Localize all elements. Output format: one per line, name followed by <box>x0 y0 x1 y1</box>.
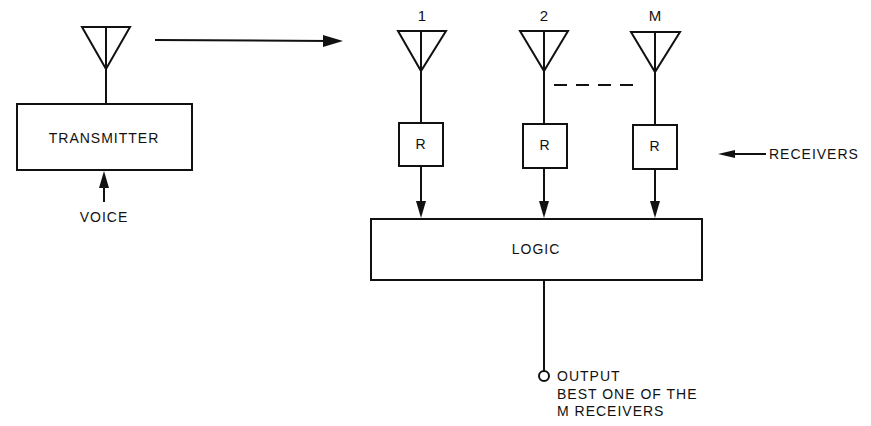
output-label-line-3: M RECEIVERS <box>557 403 664 419</box>
diversity-receiver-diagram: TRANSMITTER VOICE 1 2 M R R <box>0 0 871 426</box>
transmitter-antenna-icon <box>82 27 130 104</box>
logic-label: LOGIC <box>512 241 561 257</box>
receiver-2-to-logic-arrow <box>539 168 549 218</box>
logic-block: LOGIC <box>371 219 702 280</box>
receiver-1-label: R <box>415 136 426 152</box>
output-label-line-2: BEST ONE OF THE <box>557 386 698 402</box>
output-label-line-1: OUTPUT <box>557 368 621 384</box>
receiver-m-label: R <box>649 138 660 154</box>
receiver-2-block: R <box>523 124 567 168</box>
antenna-m-label: M <box>649 7 662 24</box>
receiver-2-label: R <box>539 137 550 153</box>
antenna-1-label: 1 <box>418 7 426 24</box>
receiver-m-block: R <box>633 125 677 169</box>
voice-input-arrow <box>99 171 109 202</box>
transmitter-label: TRANSMITTER <box>49 130 160 146</box>
transmitter-block: TRANSMITTER <box>17 104 192 170</box>
receivers-annotation-label: RECEIVERS <box>769 146 859 162</box>
receiver-1-block: R <box>399 123 443 166</box>
transmission-arrow <box>155 35 343 47</box>
voice-label: VOICE <box>80 209 129 225</box>
receive-antenna-1-icon <box>398 31 446 123</box>
antenna-2-label: 2 <box>540 7 548 24</box>
receive-antenna-m-icon <box>631 32 680 125</box>
receiver-m-to-logic-arrow <box>650 169 660 218</box>
receive-antenna-2-icon <box>520 31 568 124</box>
receiver-1-to-logic-arrow <box>416 166 426 218</box>
receivers-annotation-arrow <box>718 150 766 158</box>
output-terminal-icon <box>539 371 549 381</box>
